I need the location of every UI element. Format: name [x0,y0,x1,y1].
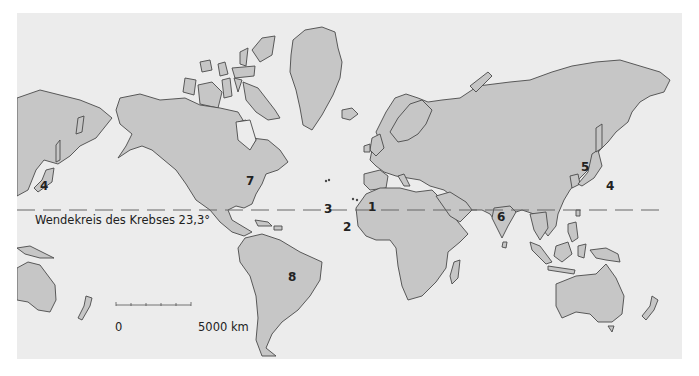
caribbean-island [274,226,282,230]
borneo [554,242,572,262]
arctic-island [200,60,212,72]
arctic-island [232,66,255,78]
sulawesi [578,244,586,258]
region-label-7: 7 [246,175,254,187]
map-graphic [17,13,682,359]
ireland [364,144,370,152]
region-label-4-left: 4 [40,180,48,192]
new-guinea-left [17,246,54,258]
region-label-2: 2 [343,221,351,233]
australia-left-edge [17,262,56,312]
region-label-1: 1 [368,201,376,213]
madagascar [450,260,460,284]
region-label-8: 8 [288,271,296,283]
scale-start-label: 0 [115,320,122,334]
arctic-island [252,36,275,62]
iberia [364,170,388,190]
taiwan [576,210,580,216]
asia-left-edge [17,90,112,196]
arctic-island [222,78,232,98]
arctic-island [218,62,228,76]
scale-end-label: 5000 km [198,320,249,334]
sakhalin [596,124,602,152]
sumatra [530,242,552,264]
world-map: 1 2 3 4 4 5 5 6 7 8 Wendekreis des Krebs… [17,13,682,359]
java [548,266,575,274]
greenland [290,27,342,130]
arctic-island [198,82,222,108]
region-label-3: 3 [324,203,332,215]
south-america [238,234,322,356]
sri-lanka [502,242,507,248]
scale-bar-line [116,302,191,306]
new-zealand [642,296,658,320]
arctic-island [234,78,242,92]
caribbean-island [255,220,272,226]
scale-bar: 0 5000 km [115,310,267,334]
new-guinea [590,248,620,262]
tropic-of-cancer-label: Wendekreis des Krebses 23,3° [35,213,210,227]
iceland [342,108,358,120]
new-zealand-left [78,296,92,320]
region-label-5: 5 [581,161,589,173]
philippines [568,222,578,242]
korea [570,174,580,188]
region-label-6: 6 [497,211,505,223]
region-label-4: 4 [606,180,614,192]
tasmania [608,326,614,332]
baffin-island [243,82,280,120]
arctic-island [183,78,196,95]
arctic-island [240,48,248,66]
indochina [530,212,548,240]
